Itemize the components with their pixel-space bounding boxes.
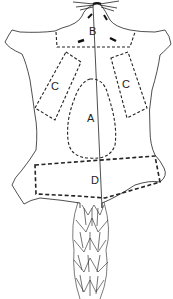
region-c-left: C bbox=[35, 52, 81, 120]
label-b: B bbox=[89, 25, 96, 37]
tail bbox=[73, 202, 109, 299]
label-a: A bbox=[87, 112, 95, 124]
label-c-right: C bbox=[122, 78, 130, 90]
region-a: A bbox=[68, 79, 116, 158]
label-d: D bbox=[91, 174, 99, 186]
pelt-diagram: B C C A D bbox=[0, 0, 173, 299]
pelt-outline bbox=[5, 4, 171, 208]
region-d: D bbox=[35, 156, 160, 198]
region-b: B bbox=[56, 14, 135, 47]
region-c-right: C bbox=[111, 52, 147, 118]
label-c-left: C bbox=[51, 80, 59, 92]
